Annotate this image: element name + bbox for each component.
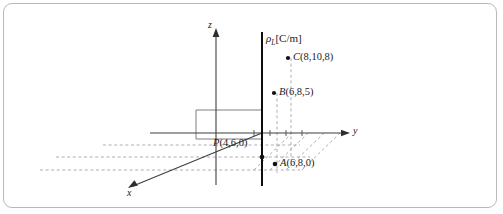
z-axis-label: z bbox=[208, 20, 212, 30]
point-a-coords: (6,8,0) bbox=[286, 157, 314, 168]
point-label-c: C(8,10,8) bbox=[293, 52, 333, 63]
plane-outline bbox=[196, 110, 262, 139]
point-label-a: A(6,8,0) bbox=[280, 158, 314, 169]
point-marker-c bbox=[286, 56, 290, 60]
y-axis-arrowhead bbox=[341, 130, 350, 136]
line-charge-density-label: ρL[C/m] bbox=[266, 33, 302, 47]
point-b-coords: (6,8,5) bbox=[285, 86, 313, 97]
point-label-b: B(6,8,5) bbox=[279, 87, 313, 98]
point-p-coords: (4,6,0) bbox=[219, 137, 247, 148]
point-marker-b bbox=[272, 91, 276, 95]
x-axis-label: x bbox=[127, 188, 131, 198]
coordinate-diagram bbox=[0, 0, 503, 214]
charge-units: [C/m] bbox=[275, 32, 301, 44]
point-c-coords: (8,10,8) bbox=[300, 51, 333, 62]
dashed-guide-lines bbox=[40, 58, 340, 173]
point-marker-a bbox=[273, 162, 278, 167]
y-axis-label: y bbox=[353, 126, 357, 136]
point-c-name: C bbox=[293, 51, 300, 62]
z-axis-arrowhead bbox=[213, 28, 220, 37]
point-label-p: P(4,6,0) bbox=[213, 138, 247, 149]
point-marker-p bbox=[260, 155, 265, 160]
